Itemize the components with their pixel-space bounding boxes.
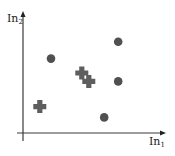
y-axis-label: In2	[7, 13, 23, 26]
axes	[17, 11, 166, 141]
circle-marker-icon	[100, 113, 109, 122]
scatter-plot	[0, 0, 175, 156]
circle-marker-icon	[114, 38, 123, 47]
circle-marker-icon	[47, 54, 56, 63]
cross-marker-icon	[33, 100, 46, 113]
x-axis-arrow-icon	[160, 131, 166, 136]
circle-marker-icon	[114, 77, 123, 86]
x-axis-label: In1	[149, 136, 165, 149]
data-points	[33, 38, 122, 122]
